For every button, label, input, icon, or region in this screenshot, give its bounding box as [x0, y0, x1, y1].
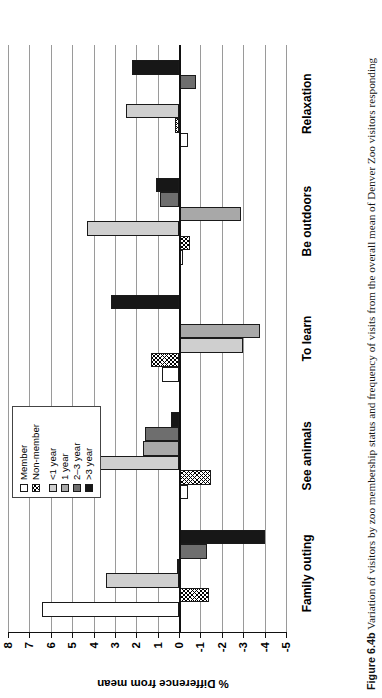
legend-label: <1 year: [48, 448, 58, 480]
figure: % Difference from mean 876543210-1-2-3-4…: [0, 0, 382, 698]
y-tick-label: 4: [88, 642, 100, 668]
y-tick-label: -2: [216, 642, 228, 668]
legend-label: Non-member: [31, 424, 41, 480]
bar: [179, 236, 190, 251]
y-tick-label: 2: [130, 642, 142, 668]
zero-line: [179, 45, 181, 632]
rotated-page: % Difference from mean 876543210-1-2-3-4…: [0, 0, 382, 698]
category-label: See animals: [300, 421, 314, 490]
bar: [179, 339, 243, 354]
bar: [87, 221, 179, 236]
legend-item: 2–3 year: [71, 413, 82, 492]
legend-swatch-icon: [85, 484, 93, 492]
figure-number: Figure 6.4b: [365, 632, 377, 690]
bar: [126, 104, 179, 119]
bar: [111, 295, 179, 310]
gridline: [72, 45, 73, 632]
figure-caption-text: Variation of visitors by zoo membership …: [365, 58, 377, 630]
category-label: To learn: [300, 316, 314, 362]
y-axis-spine: [8, 632, 286, 633]
bar: [179, 324, 260, 339]
legend-item: >3 year: [83, 413, 94, 492]
y-tick-label: 0: [173, 642, 185, 668]
legend-swatch-icon: [32, 484, 40, 492]
bar: [151, 353, 179, 368]
bar: [179, 544, 207, 559]
gridline: [51, 45, 52, 632]
bar: [132, 60, 179, 75]
y-tick-label: -3: [237, 642, 249, 668]
bar: [106, 573, 179, 588]
gridline: [115, 45, 116, 632]
legend-label: Member: [19, 445, 29, 480]
legend-swatch-icon: [61, 484, 69, 492]
category-label: Family outing: [300, 534, 314, 612]
category-label: Be outdoors: [300, 186, 314, 257]
tick-mark: [286, 632, 287, 638]
gridline: [286, 45, 287, 632]
chart-legend: MemberNon-member<1 year1 year2–3 year>3 …: [12, 406, 101, 498]
gridline: [136, 45, 137, 632]
legend-item: 1 year: [59, 413, 70, 492]
bar: [179, 470, 211, 485]
bar: [179, 207, 241, 222]
gridline: [94, 45, 95, 632]
gridline: [29, 45, 30, 632]
bar: [145, 427, 179, 442]
y-tick-label: 7: [23, 642, 35, 668]
bar: [160, 192, 179, 207]
bar: [179, 588, 209, 603]
gridline: [8, 45, 9, 632]
figure-caption: Figure 6.4b Variation of visitors by zoo…: [365, 6, 378, 690]
y-axis-title: % Difference from mean: [97, 678, 229, 690]
legend-label: 1 year: [60, 453, 70, 480]
legend-label: >3 year: [84, 448, 94, 480]
y-tick-label: 6: [45, 642, 57, 668]
y-tick-label: 8: [2, 642, 14, 668]
bar: [42, 602, 179, 617]
legend-item: Member: [18, 413, 29, 492]
legend-label: 2–3 year: [72, 443, 82, 480]
gridline: [265, 45, 266, 632]
legend-item: Non-member: [30, 413, 41, 492]
bar: [171, 412, 180, 427]
bar: [179, 75, 196, 90]
y-tick-label: -5: [280, 642, 292, 668]
bar-chart: % Difference from mean 876543210-1-2-3-4…: [0, 0, 382, 698]
y-tick-label: -1: [194, 642, 206, 668]
bar: [156, 178, 180, 193]
bar: [143, 441, 179, 456]
legend-swatch-icon: [73, 484, 81, 492]
legend-swatch-icon: [49, 484, 57, 492]
y-tick-label: 3: [109, 642, 121, 668]
category-label: Relaxation: [300, 73, 314, 134]
gridline: [158, 45, 159, 632]
y-tick-label: 1: [152, 642, 164, 668]
y-tick-label: -4: [259, 642, 271, 668]
legend-swatch-icon: [20, 484, 28, 492]
legend-item: <1 year: [47, 413, 58, 492]
y-tick-label: 5: [66, 642, 78, 668]
bar: [162, 368, 179, 383]
bar: [179, 530, 265, 545]
